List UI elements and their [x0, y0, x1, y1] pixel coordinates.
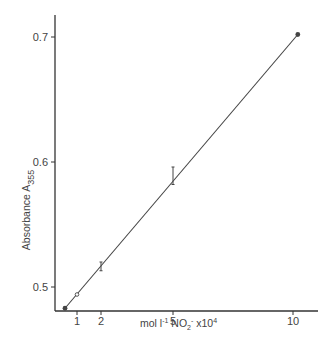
data-point-filled — [295, 32, 300, 37]
x-axis-title: mol l-1 NO2- x104 — [140, 317, 217, 331]
y-axis-title: Absorbance A355 — [20, 170, 36, 250]
axes — [55, 15, 318, 311]
x-tick-label: 10 — [287, 315, 299, 327]
x-tick-label: 2 — [98, 315, 104, 327]
data-point-open — [75, 293, 79, 297]
data-point-filled — [63, 306, 68, 311]
y-tick-label: 0.7 — [33, 31, 48, 43]
y-tick-label: 0.6 — [33, 156, 48, 168]
regression-line — [65, 35, 298, 309]
axis-ticks: 0.50.60.712510 — [33, 31, 299, 327]
y-tick-label: 0.5 — [33, 281, 48, 293]
x-tick-label: 1 — [74, 315, 80, 327]
calibration-chart: 0.50.60.712510 Absorbance A355 mol l-1 N… — [0, 0, 330, 356]
fit-line — [65, 35, 298, 309]
